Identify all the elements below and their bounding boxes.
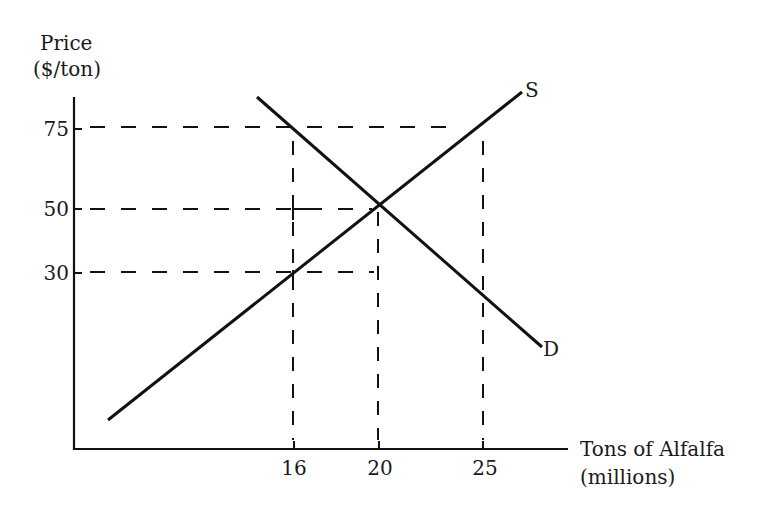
y-axis-units: ($/ton) <box>33 57 101 81</box>
y-tick-label-75: 75 <box>44 117 69 141</box>
supply-curve <box>108 92 522 420</box>
y-tick-label-50: 50 <box>44 197 69 221</box>
demand-curve <box>257 97 542 347</box>
demand-label: D <box>543 337 559 361</box>
x-axis-title: Tons of Alfalfa <box>580 437 725 461</box>
x-tick-label-16: 16 <box>281 456 306 480</box>
x-tick-label-20: 20 <box>367 456 392 480</box>
x-tick-label-25: 25 <box>472 456 497 480</box>
supply-demand-chart: S D Price ($/ton) 75 50 30 16 20 25 Tons… <box>0 0 778 526</box>
supply-label: S <box>525 78 539 102</box>
y-axis-title: Price <box>40 31 92 55</box>
x-axis-units: (millions) <box>580 465 675 489</box>
y-tick-label-30: 30 <box>44 261 69 285</box>
